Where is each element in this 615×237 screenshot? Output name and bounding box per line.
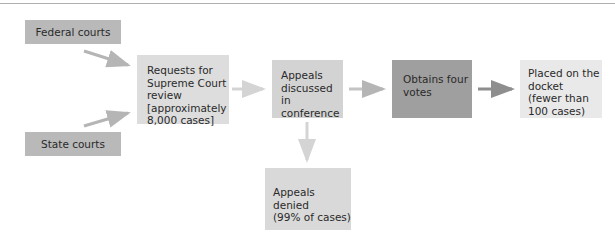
node-label: State courts [41,138,105,151]
node-label: Appeals discussed in conference [281,69,343,119]
node-obtains-four-votes: Obtains four votes [392,60,472,118]
node-label: Placed on the docket (fewer than 100 cas… [528,67,602,117]
arrow-federal-to-requests [84,51,128,65]
node-label: Obtains four votes [403,73,472,98]
node-label: Requests for Supreme Court review [appro… [147,64,229,127]
node-federal-courts: Federal courts [25,20,121,44]
node-label: Appeals denied (99% of cases) [273,186,351,224]
node-placed-on-docket: Placed on the docket (fewer than 100 cas… [520,60,602,118]
node-appeals-denied: Appeals denied (99% of cases) [265,168,351,230]
node-requests-for-review: Requests for Supreme Court review [appro… [137,55,229,124]
node-state-courts: State courts [25,132,121,156]
node-label: Federal courts [36,26,111,39]
node-appeals-discussed: Appeals discussed in conference [272,60,343,118]
arrow-state-to-requests [84,113,128,126]
